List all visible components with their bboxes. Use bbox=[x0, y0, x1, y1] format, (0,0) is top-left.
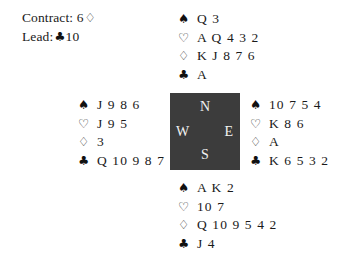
spade-icon: ♠ bbox=[178, 182, 191, 195]
hand-east: ♠ 10 7 5 4 ♡ K 8 6 ♢ A ♣ K 6 5 3 2 bbox=[250, 96, 329, 170]
hand-east-spades: ♠ 10 7 5 4 bbox=[250, 96, 329, 115]
diamond-icon: ♢ bbox=[250, 136, 263, 149]
hand-west-clubs: ♣ Q 10 9 8 7 bbox=[78, 152, 165, 171]
hand-south: ♠ A K 2 ♡ 10 7 ♢ Q 10 9 5 4 2 ♣ J 4 bbox=[178, 179, 277, 253]
hand-north-hearts: ♡ A Q 4 3 2 bbox=[178, 29, 259, 48]
hand-east-hearts-cards: K 8 6 bbox=[269, 115, 305, 134]
lead-card: 10 bbox=[66, 29, 80, 44]
compass-east-label: E bbox=[224, 125, 233, 139]
club-icon: ♣ bbox=[178, 238, 191, 251]
heart-icon: ♡ bbox=[250, 118, 263, 131]
hand-east-diamonds-cards: A bbox=[269, 133, 280, 152]
hand-north-clubs-cards: A bbox=[197, 66, 208, 85]
hand-south-hearts: ♡ 10 7 bbox=[178, 198, 277, 217]
hand-north-spades: ♠ Q 3 bbox=[178, 10, 259, 29]
diamond-icon: ♢ bbox=[178, 50, 191, 63]
diamond-icon: ♢ bbox=[178, 219, 191, 232]
contract-info-block: Contract: 6♢ Lead:♣10 bbox=[22, 8, 172, 46]
compass-north-label: N bbox=[200, 100, 210, 114]
heart-icon: ♡ bbox=[178, 32, 191, 45]
spade-icon: ♠ bbox=[250, 99, 263, 112]
contract-level: 6 bbox=[77, 10, 84, 25]
hand-west-hearts-cards: J 9 5 bbox=[97, 115, 128, 134]
contract-line: Contract: 6♢ bbox=[22, 8, 172, 27]
hand-west-hearts: ♡ J 9 5 bbox=[78, 115, 165, 134]
lead-line: Lead:♣10 bbox=[22, 27, 172, 46]
compass-south-label: S bbox=[201, 148, 209, 162]
hand-west: ♠ J 9 8 6 ♡ J 9 5 ♢ 3 ♣ Q 10 9 8 7 bbox=[78, 96, 165, 170]
heart-icon: ♡ bbox=[178, 201, 191, 214]
hand-east-clubs-cards: K 6 5 3 2 bbox=[269, 152, 329, 171]
hand-south-spades-cards: A K 2 bbox=[197, 179, 235, 198]
hand-north-spades-cards: Q 3 bbox=[197, 10, 220, 29]
diamond-icon: ♢ bbox=[78, 136, 91, 149]
hand-west-clubs-cards: Q 10 9 8 7 bbox=[97, 152, 165, 171]
compass-box: N W E S bbox=[170, 93, 240, 170]
club-icon: ♣ bbox=[250, 155, 263, 168]
hand-south-clubs: ♣ J 4 bbox=[178, 235, 277, 254]
hand-west-diamonds: ♢ 3 bbox=[78, 133, 165, 152]
hand-south-hearts-cards: 10 7 bbox=[197, 198, 225, 217]
spade-icon: ♠ bbox=[78, 99, 91, 112]
hand-north-diamonds-cards: K J 8 7 6 bbox=[197, 47, 256, 66]
hand-east-diamonds: ♢ A bbox=[250, 133, 329, 152]
hand-east-spades-cards: 10 7 5 4 bbox=[269, 96, 322, 115]
hand-east-hearts: ♡ K 8 6 bbox=[250, 115, 329, 134]
contract-label: Contract: bbox=[22, 10, 73, 25]
hand-west-diamonds-cards: 3 bbox=[97, 133, 105, 152]
hand-south-diamonds: ♢ Q 10 9 5 4 2 bbox=[178, 216, 277, 235]
hand-south-diamonds-cards: Q 10 9 5 4 2 bbox=[197, 216, 277, 235]
compass-west-label: W bbox=[176, 125, 189, 139]
club-icon: ♣ bbox=[178, 69, 191, 82]
hand-north-hearts-cards: A Q 4 3 2 bbox=[197, 29, 259, 48]
hand-west-spades-cards: J 9 8 6 bbox=[97, 96, 140, 115]
hand-north-diamonds: ♢ K J 8 7 6 bbox=[178, 47, 259, 66]
hand-north: ♠ Q 3 ♡ A Q 4 3 2 ♢ K J 8 7 6 ♣ A bbox=[178, 10, 259, 84]
diamond-outline-icon: ♢ bbox=[84, 12, 95, 25]
heart-icon: ♡ bbox=[78, 118, 91, 131]
hand-south-spades: ♠ A K 2 bbox=[178, 179, 277, 198]
hand-south-clubs-cards: J 4 bbox=[197, 235, 216, 254]
club-icon: ♣ bbox=[78, 155, 91, 168]
club-solid-icon: ♣ bbox=[54, 31, 65, 44]
bridge-deal-diagram: Contract: 6♢ Lead:♣10 ♠ Q 3 ♡ A Q 4 3 2 … bbox=[0, 0, 351, 265]
hand-north-clubs: ♣ A bbox=[178, 66, 259, 85]
lead-label: Lead: bbox=[22, 29, 53, 44]
hand-east-clubs: ♣ K 6 5 3 2 bbox=[250, 152, 329, 171]
hand-west-spades: ♠ J 9 8 6 bbox=[78, 96, 165, 115]
spade-icon: ♠ bbox=[178, 13, 191, 26]
